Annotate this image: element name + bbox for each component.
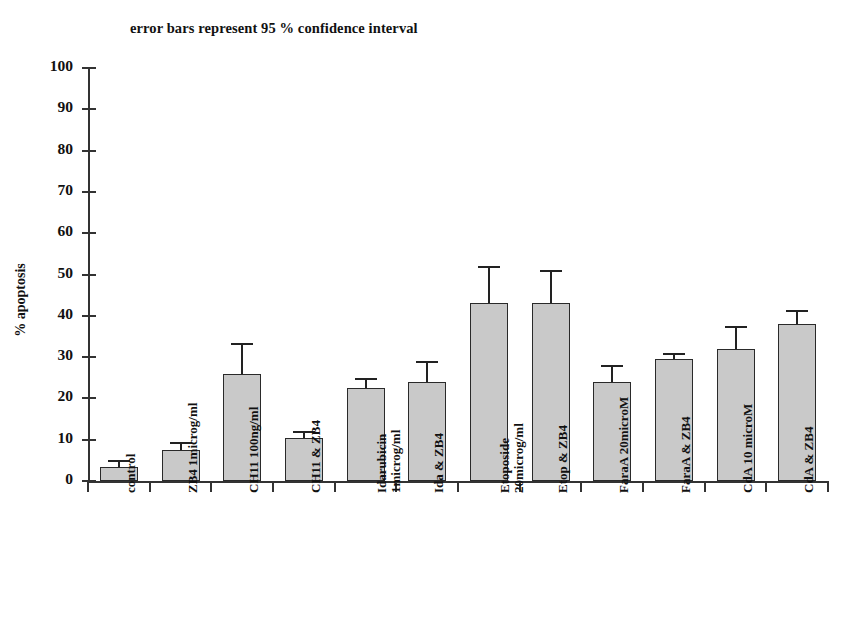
x-axis-category-label-line: Idarubicin: [375, 343, 389, 493]
error-bar-stem: [735, 326, 737, 349]
y-axis-tick-label: 100: [50, 57, 73, 75]
y-axis-tick-label: 60: [58, 222, 74, 240]
x-axis-tick: [827, 481, 829, 492]
y-axis-tick: 70: [82, 191, 96, 193]
error-bar-stem: [426, 361, 428, 382]
error-bar-stem: [488, 266, 490, 303]
x-axis-category-label-line: CdA 10 microM: [741, 343, 755, 493]
x-axis-category-label: ZB4 1microg/ml: [186, 343, 200, 493]
x-axis-category-label-line: Etoposide: [498, 343, 512, 493]
x-axis-category-label-line: 1microg/ml: [389, 343, 403, 493]
chart-title: error bars represent 95 % confidence int…: [130, 20, 418, 37]
y-axis-tick-label: 70: [58, 181, 74, 199]
y-axis-tick: 80: [82, 150, 96, 152]
error-bar-stem: [550, 270, 552, 303]
x-axis-tick: [272, 481, 274, 492]
x-axis-category-label: FaraA & ZB4: [679, 343, 693, 493]
x-axis-category-label: CdA 10 microM: [741, 343, 755, 493]
x-axis-category-label: Etop & ZB4: [556, 343, 570, 493]
y-axis-line: [88, 68, 90, 483]
x-axis-category-label-line: Ida & ZB4: [432, 343, 446, 493]
x-axis-category-label-line: CH11 & ZB4: [309, 343, 323, 493]
x-axis-category-label: Ida & ZB4: [432, 343, 446, 493]
error-bar-cap: [478, 266, 500, 268]
y-axis-tick-label: 50: [58, 264, 74, 282]
x-axis-category-label-line: FaraA 20microM: [617, 343, 631, 493]
x-axis-category-label-line: Etop & ZB4: [556, 343, 570, 493]
y-axis-tick-label: 20: [58, 387, 74, 405]
x-axis-tick: [765, 481, 767, 492]
error-bar-stem: [241, 343, 243, 374]
x-axis-category-label-line: FaraA & ZB4: [679, 343, 693, 493]
x-axis-category-label: CdA & ZB4: [802, 343, 816, 493]
error-bar-stem: [796, 310, 798, 324]
error-bar-cap: [540, 270, 562, 272]
y-axis-tick-label: 90: [58, 98, 74, 116]
y-axis-label: % apoptosis: [13, 263, 29, 337]
y-axis-tick: 40: [82, 315, 96, 317]
x-axis-category-label-line: control: [124, 343, 138, 493]
x-axis-tick: [580, 481, 582, 492]
y-axis-tick: 10: [82, 439, 96, 441]
error-bar-cap: [355, 378, 377, 380]
y-axis-tick-label: 0: [65, 470, 73, 488]
x-axis-category-label-line: CdA & ZB4: [802, 343, 816, 493]
x-axis-tick: [704, 481, 706, 492]
x-axis-category-label-line: ZB4 1microg/ml: [186, 343, 200, 493]
y-axis-label-wrapper: % apoptosis: [6, 230, 36, 370]
y-axis-tick: 0: [82, 480, 96, 482]
y-axis-tick: 60: [82, 232, 96, 234]
error-bar-cap: [786, 310, 808, 312]
y-axis-tick-label: 40: [58, 305, 74, 323]
y-axis-tick: 20: [82, 397, 96, 399]
x-axis-category-label: CH11 & ZB4: [309, 343, 323, 493]
error-bar-cap: [725, 326, 747, 328]
x-axis-tick: [87, 481, 89, 492]
x-axis-category-label: CH11 100ng/ml: [247, 343, 261, 493]
y-axis-tick-label: 80: [58, 140, 74, 158]
y-axis-tick: 30: [82, 356, 96, 358]
x-axis-category-label: Idarubicin1microg/ml: [375, 343, 403, 493]
error-bar-stem: [611, 365, 613, 382]
x-axis-tick: [149, 481, 151, 492]
x-axis-category-label-line: CH11 100ng/ml: [247, 343, 261, 493]
x-axis-category-label: Etoposide20microg/ml: [498, 343, 526, 493]
y-axis-tick-label: 30: [58, 346, 74, 364]
x-axis-category-label: FaraA 20microM: [617, 343, 631, 493]
y-axis-tick-label: 10: [58, 429, 74, 447]
x-axis-category-label-line: 20microg/ml: [512, 343, 526, 493]
y-axis-tick: 100: [82, 67, 96, 69]
x-axis-tick: [334, 481, 336, 492]
y-axis-tick: 50: [82, 274, 96, 276]
chart-root: error bars represent 95 % confidence int…: [0, 0, 841, 641]
x-axis-tick: [210, 481, 212, 492]
x-axis-tick: [642, 481, 644, 492]
x-axis-category-label: control: [124, 343, 138, 493]
x-axis-tick: [457, 481, 459, 492]
y-axis-tick: 90: [82, 108, 96, 110]
